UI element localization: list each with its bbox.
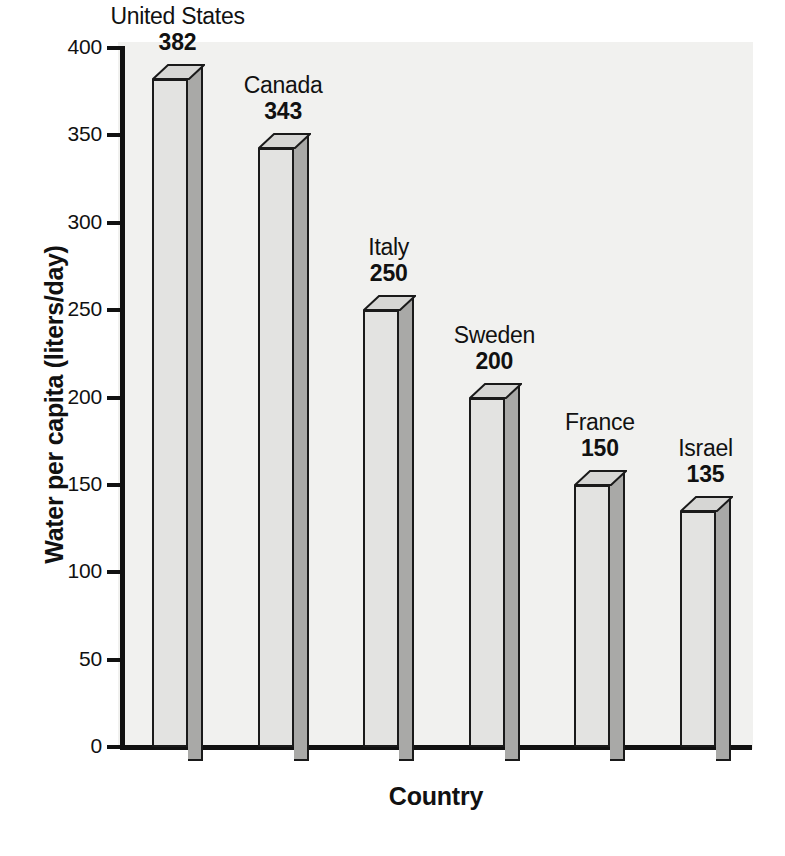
plot-area-background xyxy=(118,42,753,749)
y-axis-line xyxy=(120,46,125,750)
bar-top-face xyxy=(680,496,732,511)
bar-front-face xyxy=(152,79,188,747)
y-axis-tick xyxy=(107,658,121,662)
bar-top-face xyxy=(258,133,310,148)
bar-value-label: 250 xyxy=(299,260,478,286)
bar-front-face xyxy=(258,148,294,747)
bar-category-label: Canada xyxy=(194,72,373,98)
bar-side-face xyxy=(188,65,203,761)
bar-category-label: Israel xyxy=(616,435,785,461)
bar-value-label: 135 xyxy=(616,461,785,487)
y-axis-tick xyxy=(107,308,121,312)
bar-israel[interactable] xyxy=(680,0,731,856)
bar-category-label: Italy xyxy=(299,234,478,260)
y-axis-title: Water per capita (liters/day) xyxy=(40,145,69,665)
bar-category-label: France xyxy=(510,409,689,435)
bar-top-face xyxy=(363,295,415,310)
bar-annotation: Italy250 xyxy=(299,234,478,286)
bar-side-face xyxy=(716,497,731,761)
bar-annotation: Canada343 xyxy=(194,72,373,124)
bar-italy[interactable] xyxy=(363,0,414,856)
bar-united-states[interactable] xyxy=(152,0,203,856)
bar-front-face xyxy=(574,485,610,747)
bar-front-face xyxy=(363,310,399,747)
bar-annotation: Israel135 xyxy=(616,435,785,487)
bar-annotation: Sweden200 xyxy=(405,322,584,374)
y-axis-tick-label: 350 xyxy=(38,122,102,146)
y-axis-tick xyxy=(107,396,121,400)
y-axis-tick xyxy=(107,133,121,137)
bar-category-label: Sweden xyxy=(405,322,584,348)
y-axis-tick-label: 0 xyxy=(38,734,102,758)
y-axis-tick xyxy=(107,483,121,487)
bar-value-label: 343 xyxy=(194,98,373,124)
bar-side-face xyxy=(610,471,625,761)
bar-annotation: United States382 xyxy=(88,3,267,55)
y-axis-tick xyxy=(107,745,121,749)
bar-canada[interactable] xyxy=(258,0,309,856)
x-axis-line xyxy=(120,745,752,750)
y-axis-tick xyxy=(107,570,121,574)
bar-value-label: 200 xyxy=(405,348,584,374)
bar-front-face xyxy=(469,398,505,748)
y-axis-tick xyxy=(107,221,121,225)
x-axis-title: Country xyxy=(120,782,752,811)
bar-chart-figure: 050100150200250300350400 United States38… xyxy=(0,0,785,856)
bar-top-face xyxy=(469,383,521,398)
bar-side-face xyxy=(294,134,309,761)
bar-value-label: 382 xyxy=(88,29,267,55)
bar-front-face xyxy=(680,511,716,747)
bar-category-label: United States xyxy=(88,3,267,29)
